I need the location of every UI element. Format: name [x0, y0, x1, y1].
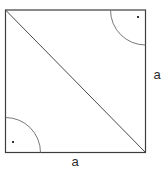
- angle-arc-bottom-left: [6, 118, 41, 153]
- square-diagram-svg: a a: [0, 0, 164, 173]
- angle-dot-bottom-left: [12, 141, 14, 143]
- diagonal-line: [6, 10, 146, 153]
- angle-arc-top-right: [111, 10, 146, 45]
- geometry-figure: a a: [0, 0, 164, 173]
- side-label-right: a: [154, 67, 162, 82]
- angle-dot-top-right: [137, 16, 139, 18]
- side-label-bottom: a: [72, 154, 80, 169]
